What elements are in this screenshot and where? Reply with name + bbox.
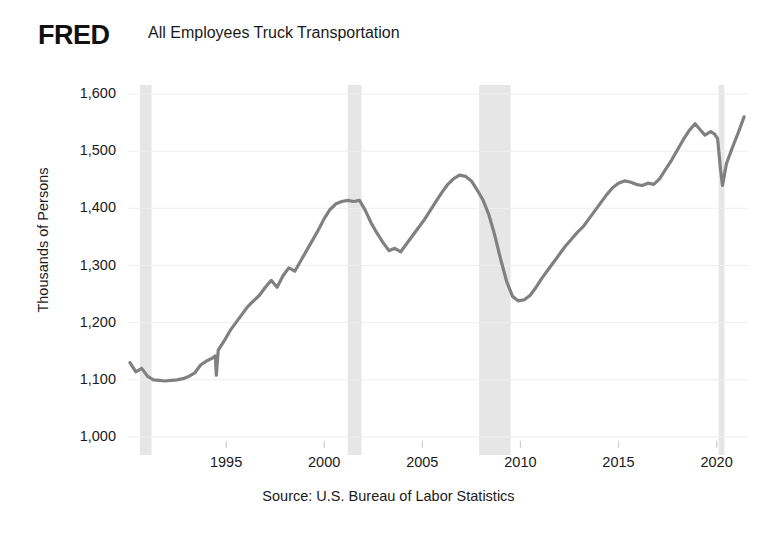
y-axis-tick: 1,100 (52, 371, 116, 387)
fred-chart-page: FRED All Employees Truck Transportation … (0, 0, 777, 544)
x-axis-tick: 1995 (196, 454, 256, 470)
x-axis-tick: 2020 (687, 454, 747, 470)
y-axis-tick: 1,300 (52, 257, 116, 273)
x-axis-tick: 2010 (490, 454, 550, 470)
source-note: Source: U.S. Bureau of Labor Statistics (0, 488, 777, 504)
y-axis-label: Thousands of Persons (35, 135, 51, 345)
chart-plot-area: Thousands of Persons 1,0001,1001,2001,30… (0, 0, 777, 544)
x-axis-tick: 2005 (392, 454, 452, 470)
x-axis-tick: 2000 (294, 454, 354, 470)
recession-band (719, 85, 725, 455)
y-axis-tick: 1,500 (52, 142, 116, 158)
recession-band (348, 85, 362, 455)
series-line (130, 117, 744, 381)
chart-svg (0, 0, 777, 544)
y-axis-tick: 1,000 (52, 428, 116, 444)
recession-band (140, 85, 152, 455)
y-axis-tick: 1,200 (52, 314, 116, 330)
x-axis-tick: 2015 (589, 454, 649, 470)
y-axis-tick: 1,400 (52, 199, 116, 215)
recession-band (479, 85, 510, 455)
y-axis-tick: 1,600 (52, 85, 116, 101)
